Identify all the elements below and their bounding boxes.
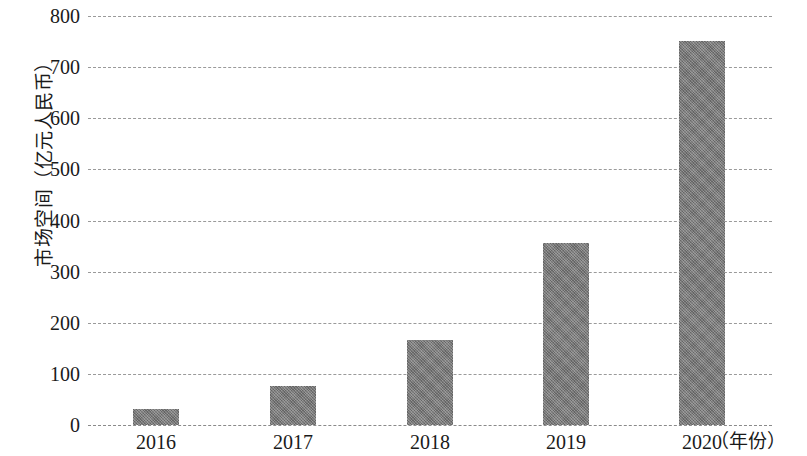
y-tick-label: 100 — [22, 364, 80, 384]
y-tick-label: 800 — [22, 6, 80, 26]
y-tick-label: 700 — [22, 57, 80, 77]
y-tick-label: 200 — [22, 313, 80, 333]
bar — [407, 340, 453, 425]
bars-layer — [88, 16, 772, 425]
bar — [133, 409, 179, 425]
bar — [543, 243, 589, 425]
bar — [270, 386, 316, 425]
bar-chart: 市场空间（亿元人民币） 0100200300400500600700800 （年… — [0, 0, 807, 456]
y-tick-label: 600 — [22, 108, 80, 128]
bar — [679, 41, 725, 425]
y-axis-tick-labels: 0100200300400500600700800 — [20, 0, 80, 456]
x-tick-label: 2020 — [642, 430, 762, 454]
x-tick-label: 2017 — [233, 430, 353, 454]
gridline — [88, 425, 772, 426]
x-tick-label: 2018 — [370, 430, 490, 454]
y-tick-label: 300 — [22, 262, 80, 282]
x-axis-tick-labels: （年份） 20162017201820192020 — [0, 430, 807, 456]
x-tick-label: 2019 — [506, 430, 626, 454]
plot-area — [88, 16, 772, 425]
x-tick-label: 2016 — [96, 430, 216, 454]
y-tick-label: 400 — [22, 211, 80, 231]
y-tick-label: 500 — [22, 159, 80, 179]
